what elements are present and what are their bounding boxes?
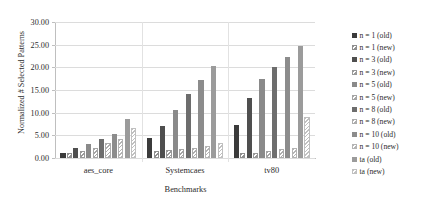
bar [247,98,252,158]
bar [67,153,72,158]
legend-swatch-icon [352,70,357,75]
bar [285,57,290,158]
y-axis-tick-mark [52,22,55,23]
y-axis-tick-mark [52,113,55,114]
bar [105,143,110,158]
legend-item[interactable]: n = 3 (old) [352,54,428,66]
bar [292,148,297,158]
legend-swatch-icon [352,169,357,174]
legend-item[interactable]: n = 10 (old) [352,128,428,140]
bar [86,144,91,158]
x-axis-title: Benchmarks [55,185,316,194]
y-axis-tick-label: 5.00 [13,131,49,140]
bar [234,125,239,158]
legend-label: ta (new) [360,167,385,176]
group-separator [142,22,143,162]
y-axis-tick-label: 10.00 [13,108,49,117]
legend-label: n = 10 (new) [360,142,399,151]
legend-label: n = 3 (old) [360,55,392,64]
legend-label: n = 1 (old) [360,31,392,40]
group-separator [228,22,229,162]
y-axis-tick-label: 30.00 [13,18,49,27]
legend-item[interactable]: n = 5 (new) [352,91,428,103]
bar [179,149,184,158]
y-axis-tick-mark [52,45,55,46]
y-axis-tick-mark [52,67,55,68]
legend-label: ta (old) [360,155,382,164]
bar [125,119,130,158]
y-axis-tick-mark [52,90,55,91]
legend-swatch-icon [352,157,357,162]
legend-swatch-icon [352,107,357,112]
legend-item[interactable]: ta (old) [352,153,428,165]
legend-label: n = 8 (old) [360,105,392,114]
bar [93,148,98,158]
bar [192,148,197,158]
legend-item[interactable]: n = 1 (new) [352,41,428,53]
legend-swatch-icon [352,119,357,124]
legend-label: n = 3 (new) [360,68,395,77]
bar [205,146,210,158]
bars-layer [55,22,315,158]
bar [112,134,117,158]
legend-swatch-icon [352,57,357,62]
bar [259,79,264,158]
bar [186,94,191,158]
gridline [55,158,315,159]
legend-item[interactable]: n = 8 (new) [352,116,428,128]
plot-area [55,22,315,158]
bar [272,67,277,158]
legend-label: n = 5 (old) [360,80,392,89]
bar [266,151,271,158]
legend-swatch-icon [352,144,357,149]
bar [279,149,284,158]
legend-swatch-icon [352,33,357,38]
legend-item[interactable]: n = 3 (new) [352,66,428,78]
x-axis-category-label: Systemcaes [142,166,229,175]
legend-swatch-icon [352,95,357,100]
bar [131,128,136,158]
bar [73,148,78,158]
bar [253,153,258,158]
bar [304,117,309,158]
legend: n = 1 (old)n = 1 (new)n = 3 (old)n = 3 (… [352,29,428,178]
bar [160,126,165,158]
bar [99,139,104,158]
x-axis-category-label: aes_core [55,166,142,175]
bar [147,138,152,158]
y-axis-tick-label: 25.00 [13,40,49,49]
bar [198,80,203,158]
y-axis-tick-mark [52,158,55,159]
bar [166,150,171,158]
bar [211,66,216,158]
x-axis-category-label: tv80 [228,166,315,175]
bar [80,151,85,158]
legend-label: n = 1 (new) [360,43,395,52]
bar [240,153,245,158]
legend-item[interactable]: n = 10 (new) [352,141,428,153]
y-axis-tick-label: 0.00 [13,154,49,163]
legend-item[interactable]: ta (new) [352,165,428,177]
legend-label: n = 5 (new) [360,93,395,102]
y-axis-tick-label: 15.00 [13,86,49,95]
y-axis-tick-mark [52,135,55,136]
bar [60,153,65,158]
bar [298,46,303,158]
legend-item[interactable]: n = 8 (old) [352,103,428,115]
legend-label: n = 10 (old) [360,130,396,139]
legend-swatch-icon [352,82,357,87]
legend-label: n = 8 (new) [360,117,395,126]
bar [118,139,123,158]
bar-chart: Normalized # Selected Patterns 0.005.001… [0,0,428,207]
legend-item[interactable]: n = 5 (old) [352,79,428,91]
legend-swatch-icon [352,132,357,137]
bar [218,143,223,158]
y-axis-tick-label: 20.00 [13,63,49,72]
legend-item[interactable]: n = 1 (old) [352,29,428,41]
bar [154,151,159,158]
bar [173,110,178,158]
legend-swatch-icon [352,45,357,50]
